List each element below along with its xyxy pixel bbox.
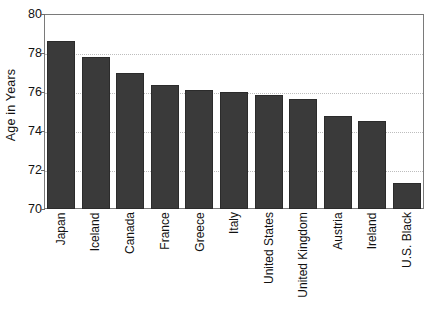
x-axis-label-text: Greece — [192, 212, 206, 251]
y-tick-label: 72 — [28, 164, 42, 177]
bar — [185, 90, 213, 209]
x-axis-label: United Kingdom — [286, 211, 321, 317]
y-axis-tick-labels: 807876747270 — [22, 14, 42, 209]
x-axis-label: Japan — [44, 211, 79, 317]
y-tick-mark — [41, 209, 45, 210]
y-tick-label: 70 — [28, 203, 42, 216]
y-tick-label: 76 — [28, 86, 42, 99]
x-axis-label-text: Ireland — [365, 212, 379, 249]
bar — [393, 183, 421, 209]
x-axis-label-text: Canada — [123, 212, 137, 254]
x-axis-label: Iceland — [79, 211, 114, 317]
x-axis-label: Canada — [113, 211, 148, 317]
x-axis-label-text: Iceland — [89, 212, 103, 251]
x-axis-label-text: U.S. Black — [400, 212, 414, 268]
bar — [82, 57, 110, 209]
x-axis-label: Greece — [182, 211, 217, 317]
x-axis-label: Austria — [320, 211, 355, 317]
bar — [289, 99, 317, 209]
bar — [324, 116, 352, 209]
x-axis-label-text: Italy — [227, 212, 241, 234]
x-axis-label: United States — [251, 211, 286, 317]
bar — [116, 73, 144, 210]
x-axis-label-text: United Kingdom — [296, 212, 310, 297]
x-axis-label-text: United States — [262, 212, 276, 284]
bars-layer — [44, 14, 424, 209]
bar — [151, 85, 179, 209]
x-axis-category-labels: JapanIcelandCanadaFranceGreeceItalyUnite… — [44, 211, 424, 317]
x-axis-label: France — [148, 211, 183, 317]
y-tick-label: 80 — [28, 8, 42, 21]
x-axis-label: Ireland — [355, 211, 390, 317]
bar-chart: Age in Years 807876747270 JapanIcelandCa… — [0, 0, 439, 319]
y-axis-title: Age in Years — [0, 0, 22, 210]
x-axis-label: U.S. Black — [389, 211, 424, 317]
bar — [255, 95, 283, 209]
x-axis-label-text: France — [158, 212, 172, 249]
bar — [358, 121, 386, 209]
y-tick-label: 78 — [28, 47, 42, 60]
x-axis-label-text: Austria — [331, 212, 345, 249]
y-tick-label: 74 — [28, 125, 42, 138]
x-axis-label-text: Japan — [54, 212, 68, 245]
bar — [47, 41, 75, 209]
bar — [220, 92, 248, 209]
x-axis-label: Italy — [217, 211, 252, 317]
y-axis-title-label: Age in Years — [4, 69, 18, 142]
